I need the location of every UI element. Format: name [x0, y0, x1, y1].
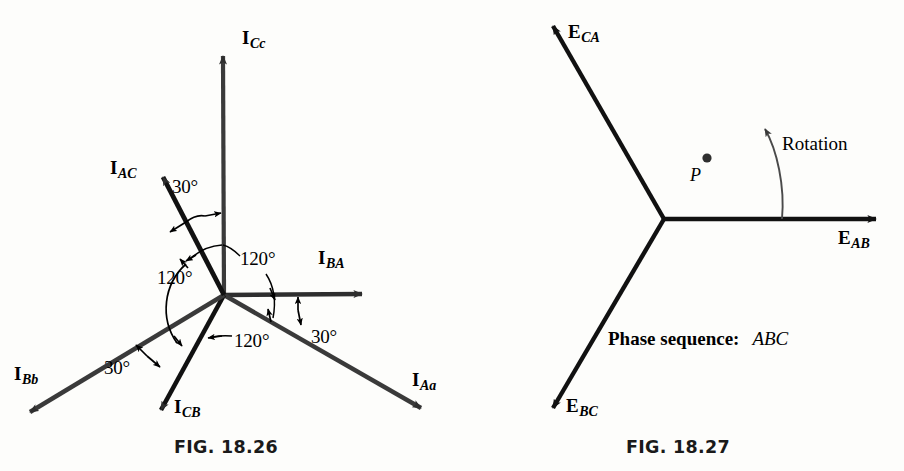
vector-label-E-AB: EAB [838, 228, 869, 247]
vector-label-I-CB: ICB [174, 397, 200, 416]
vector-label-I-Bb: IBb [14, 364, 38, 383]
figure-caption-18-26: FIG. 18.26 [0, 437, 452, 457]
rotation-arrow-icon [765, 129, 783, 219]
angle-annotations [136, 213, 301, 367]
vector-label-I-AC: IAC [110, 158, 136, 177]
angle-label-120-top-right: 120° [240, 249, 275, 268]
angle-label-120-left: 120° [157, 268, 192, 287]
phasor-diagram-voltages [452, 0, 904, 471]
vector-label-I-Aa: IAa [412, 370, 436, 389]
phasor-I-BA [224, 294, 362, 295]
point-P-dot [702, 153, 711, 162]
angle-label-30-right: 30° [311, 327, 337, 346]
phasor-E-BC [553, 219, 664, 408]
angle-label-120-bottom: 120° [234, 331, 269, 350]
phasor-diagram-currents [0, 0, 452, 471]
angle-arrow-30-top-right [205, 213, 221, 216]
phasor-lines [30, 56, 421, 412]
angle-arrow-30-top-left [170, 222, 186, 232]
angle-arrow-120-bottom [208, 336, 222, 338]
angle-arc-30-top [186, 216, 205, 222]
phase-sequence-prefix: Phase sequence: [608, 328, 739, 349]
vector-label-E-CA: ECA [568, 22, 599, 41]
figure-18-26: ICc IBA IAa ICB IBb IAC 30° 120° 120° 12… [0, 0, 452, 471]
rotation-label: Rotation [782, 134, 847, 153]
phasor-I-Aa [224, 295, 421, 408]
phasor-I-Bb [30, 295, 224, 412]
figure-page: ICc IBA IAa ICB IBb IAC 30° 120° 120° 12… [0, 0, 904, 471]
angle-arrow-30-right-down [298, 310, 301, 325]
phasor-E-CA [553, 26, 664, 219]
figure-18-27: EAB ECA EBC P Rotation Phase sequence: A… [452, 0, 904, 471]
angle-arrow-120-top [186, 255, 196, 261]
vector-label-I-Cc: ICc [242, 28, 265, 47]
figure-caption-18-27: FIG. 18.27 [452, 437, 904, 457]
vector-label-I-BA: IBA [318, 248, 344, 267]
phase-sequence-text: Phase sequence: ABC [608, 329, 788, 348]
vector-label-E-BC: EBC [566, 396, 597, 415]
angle-arrow-30-lower-down [147, 356, 160, 367]
phasor-I-Cc [223, 56, 224, 295]
phase-sequence-value: ABC [752, 328, 788, 349]
phasor-lines [553, 26, 876, 408]
angle-label-30-lower-left: 30° [104, 358, 130, 377]
point-P-label: P [690, 166, 701, 184]
angle-label-30-top: 30° [172, 177, 198, 196]
